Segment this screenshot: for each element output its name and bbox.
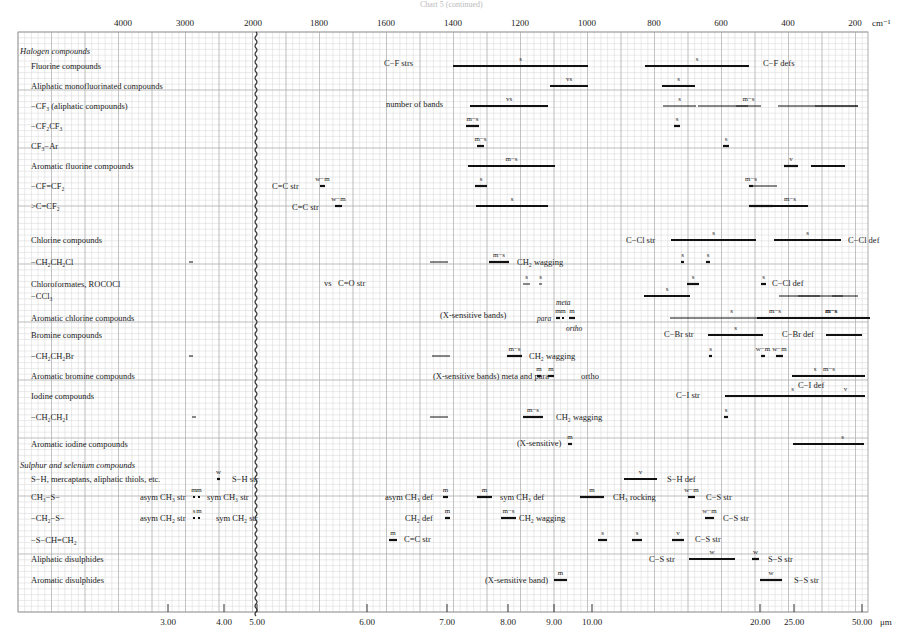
- top-tick-label: 1800: [310, 18, 329, 28]
- intensity-label: m−s: [742, 95, 754, 103]
- intensity-label: m: [196, 507, 202, 515]
- intensity-label: w: [216, 468, 222, 476]
- intensity-label: s: [806, 229, 809, 237]
- intensity-label: m: [589, 486, 595, 494]
- top-axis-unit: cm⁻¹: [872, 18, 891, 28]
- section-heading: Halogen compounds: [19, 46, 91, 56]
- band-annotation: C−F defs: [763, 58, 794, 68]
- top-tick-label: 400: [781, 18, 795, 28]
- band-annotation: sym CH₃ str: [207, 492, 249, 502]
- band-annotation: (X-sensitive): [517, 438, 562, 448]
- intensity-label: s: [681, 251, 684, 259]
- intensity-label: s: [707, 251, 710, 259]
- intensity-label: s: [762, 273, 765, 281]
- intensity-label: m−s: [502, 507, 514, 515]
- intensity-label: m: [443, 486, 449, 494]
- bottom-tick-label: 50.00: [852, 617, 873, 627]
- band-annotation: C−Cl def: [772, 278, 804, 288]
- intensity-label: m: [569, 307, 575, 315]
- band-annotation: S−S str: [768, 554, 793, 564]
- intensity-label: m: [558, 569, 564, 577]
- band-annotation: C−Br def: [782, 329, 814, 339]
- band-annotation: C=C str: [292, 202, 319, 212]
- bottom-tick-label: 9.00: [546, 617, 562, 627]
- intensity-label: s: [511, 195, 514, 203]
- top-tick-label: 1200: [511, 18, 530, 28]
- bottom-tick-label: 25.00: [784, 617, 805, 627]
- top-tick-label: 600: [714, 18, 728, 28]
- bottom-tick-label: 6.00: [359, 617, 375, 627]
- bottom-axis-unit: μm: [880, 617, 892, 627]
- intensity-label: w: [768, 569, 774, 577]
- bottom-tick-label: 3.00: [160, 617, 176, 627]
- band-annotation: C−F strs: [384, 58, 413, 68]
- row-label: CH₃−S−: [31, 492, 60, 502]
- band-annotation: C−S str: [706, 492, 732, 502]
- bottom-axis-wavelength: 3.004.005.006.007.008.009.0010.0020.0025…: [160, 604, 892, 627]
- band-annotation: (X-sensitive bands) meta and para: [433, 371, 549, 381]
- band-annotation: C−I def: [798, 380, 824, 390]
- intensity-label: s: [712, 229, 715, 237]
- band-annotation: CH₂ def: [405, 513, 433, 523]
- top-tick-label: 1400: [444, 18, 463, 28]
- intensity-label: s: [525, 273, 528, 281]
- intensity-label: vs: [506, 95, 513, 103]
- band-annotation: asym CH₃ def: [385, 492, 433, 502]
- row-label: CF₃−Ar: [31, 141, 58, 151]
- row-label: Bromine compounds: [31, 330, 102, 340]
- ir-correlation-chart: 4000300020001800160014001200100080060040…: [0, 0, 916, 632]
- intensity-label: s: [725, 135, 728, 143]
- intensity-label: s: [791, 385, 794, 393]
- section-heading: Sulphur and selenium compounds: [20, 460, 136, 470]
- row-label: −CF₃ (aliphatic compounds): [31, 101, 128, 111]
- intensity-label: w−m: [702, 507, 717, 515]
- row-label: −S−CH=CH₂: [31, 535, 77, 545]
- intensity-label: s: [519, 55, 522, 63]
- bottom-tick-label: 8.00: [500, 617, 516, 627]
- row-label: Aliphatic disulphides: [31, 554, 103, 564]
- row-label: −CF=CF₂: [31, 181, 64, 191]
- band-annotation: CH₂ wagging: [529, 351, 576, 361]
- row-label: Iodine compounds: [31, 391, 94, 401]
- intensity-label: v: [789, 155, 793, 163]
- intensity-label: m−s: [466, 115, 478, 123]
- top-tick-label: 200: [848, 18, 862, 28]
- band-annotation: asym CH₂ str: [140, 513, 186, 523]
- intensity-label: m: [560, 307, 566, 315]
- svg-text:meta: meta: [556, 298, 571, 307]
- intensity-label: m: [445, 507, 451, 515]
- top-tick-label: 2000: [244, 18, 263, 28]
- scale-break-wavy-line: [255, 32, 257, 616]
- intensity-label: m: [548, 365, 554, 373]
- intensity-label: w−m: [315, 175, 330, 183]
- intensity-label: w−m: [331, 195, 346, 203]
- band-annotation: CH₂ wagging: [556, 412, 603, 422]
- intensity-label: m−s: [823, 365, 835, 373]
- row-label: S−H, mercaptans, aliphatic thiols, etc.: [31, 474, 160, 484]
- band-annotation: C−Cl str: [626, 235, 655, 245]
- band-annotation: C−S str: [649, 554, 675, 564]
- band-annotation: vs: [324, 278, 332, 288]
- band-annotation: C=O str: [338, 278, 365, 288]
- top-axis-wavenumber: 4000300020001800160014001200100080060040…: [114, 18, 891, 28]
- band-annotation: number of bands: [386, 99, 443, 109]
- top-tick-label: 4000: [114, 18, 133, 28]
- intensity-label: m−s: [527, 406, 539, 414]
- intensity-label: w−m: [756, 345, 771, 353]
- intensity-label: s: [730, 307, 733, 315]
- band-annotation: S−S str: [794, 575, 819, 585]
- intensity-label: s: [677, 75, 680, 83]
- intensity-label: s: [601, 529, 604, 537]
- band-annotation: C−Cl def: [848, 235, 880, 245]
- row-label: >C=CF₂: [31, 201, 60, 211]
- intensity-label: vs: [566, 75, 573, 83]
- annotations: C−F strsC−F defsnumber of bandsC=C strC=…: [140, 58, 880, 585]
- intensity-label: s: [692, 273, 695, 281]
- intensity-label: m−s: [474, 135, 486, 143]
- row-label: Aromatic chlorine compounds: [31, 313, 134, 323]
- band-annotation: ortho: [581, 371, 599, 381]
- intensity-label: w−m: [684, 486, 699, 494]
- intensity-label: s: [480, 175, 483, 183]
- intensity-label: s: [841, 433, 844, 441]
- band-annotation: (X-sensitive bands): [440, 310, 507, 320]
